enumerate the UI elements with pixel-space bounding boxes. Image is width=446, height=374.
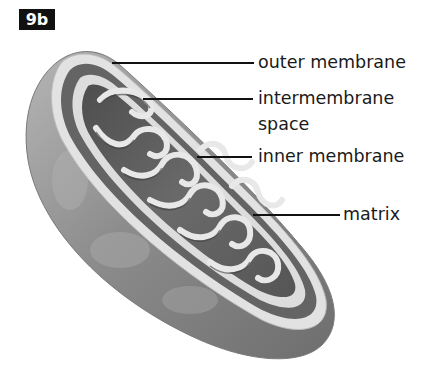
inner-membrane-label: inner membrane	[258, 146, 404, 167]
matrix-label: matrix	[343, 204, 400, 225]
intermembrane-space-label-line2: space	[258, 114, 309, 135]
matrix-leader-line	[253, 214, 340, 216]
intermembrane-space-label-line1: intermembrane	[258, 88, 394, 109]
outer-membrane-label: outer membrane	[258, 52, 406, 73]
inner-membrane-leader-line	[197, 156, 252, 158]
intermembrane-space-leader-line	[143, 98, 253, 100]
outer-membrane-leader-line	[112, 62, 254, 64]
